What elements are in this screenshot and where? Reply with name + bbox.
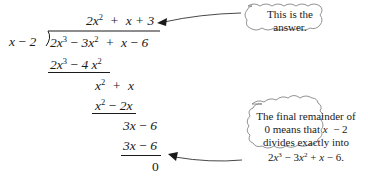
dividend: 2x3 − 3x2 + x − 6 <box>50 35 148 50</box>
step-2-subtract: x2 − 2x <box>95 98 132 113</box>
quotient: 2x2 + x + 3 <box>86 13 154 28</box>
remainder: 0 <box>152 160 159 174</box>
arrowhead-icon <box>168 152 178 161</box>
step-2-result: 3x − 6 <box>123 119 157 133</box>
remainder-line-1: The final remainder of <box>250 110 362 123</box>
step-2-rule <box>92 113 136 114</box>
step-1-result: x2 + x <box>95 78 134 93</box>
remainder-arrow <box>175 157 242 161</box>
remainder-line-2: 0 means that x − 2 <box>250 123 362 136</box>
step-3-subtract: 3x − 6 <box>123 139 157 153</box>
step-3-rule <box>121 155 161 156</box>
answer-callout-text: This is the answer. <box>250 8 330 34</box>
remainder-line-3: divides exactly into <box>250 136 362 149</box>
step-1-subtract: 2x3 − 4 x2 <box>50 57 102 72</box>
remainder-line-4: 2x3 − 3x2 + x − 6. <box>250 149 362 164</box>
divisor: x − 2 <box>9 35 36 49</box>
remainder-callout-text: The final remainder of 0 means that x − … <box>250 110 362 164</box>
arrowhead-icon <box>157 18 167 26</box>
answer-arrow <box>164 13 241 22</box>
step-1-rule <box>48 72 110 73</box>
